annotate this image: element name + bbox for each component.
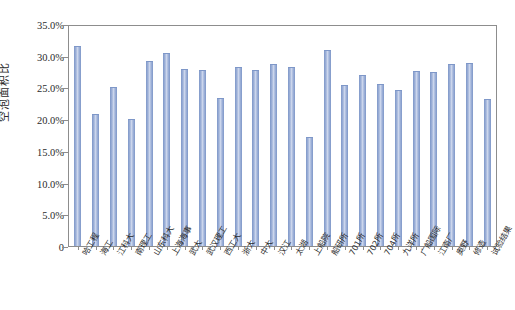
bar-slot [122,26,140,246]
x-label-slot: 江科大 [105,249,123,309]
bar-slot [247,26,265,246]
bar [74,46,81,246]
bar-slot [336,26,354,246]
bar-slot [265,26,283,246]
x-label-slot: 修造 [461,249,479,309]
y-axis-tick-label: 35.0% [37,20,64,31]
x-label-slot: 武汉理工 [194,249,212,309]
bar [163,53,170,246]
bar-slot [372,26,390,246]
bar [288,67,295,246]
y-axis-tick-labels: 35.0%30.0%25.0%20.0%15.0%10.0%5.0%0 [0,0,68,310]
bar-slot [105,26,123,246]
bar [484,99,491,246]
bar-slot [211,26,229,246]
bar [270,64,277,246]
x-label-slot: 试验结果 [478,249,496,309]
bar [146,61,153,246]
bar [92,114,99,246]
bar-slot [443,26,461,246]
bar-slot [194,26,212,246]
bar-slot [318,26,336,246]
x-label-slot: 浙大 [229,249,247,309]
bar [413,71,420,246]
x-label-slot: 南理工 [122,249,140,309]
bar [341,85,348,246]
bar [199,70,206,246]
bar [306,137,313,246]
x-label-slot: 广船国际 [407,249,425,309]
bar-slot [300,26,318,246]
bar-slot [461,26,479,246]
y-axis-tick-label: 30.0% [37,51,64,62]
bar [128,119,135,246]
bar-slot [87,26,105,246]
bar [448,64,455,246]
x-label-slot: 701所 [336,249,354,309]
bar [430,72,437,246]
bar [235,67,242,246]
x-label-slot: 上船院 [300,249,318,309]
x-label-slot: 海工 [87,249,105,309]
bar [181,69,188,246]
bar-slot [283,26,301,246]
x-label-slot: 上海海事 [158,249,176,309]
bar-chart: 空泡面积比 35.0%30.0%25.0%20.0%15.0%10.0%5.0%… [0,0,515,310]
x-label-slot: 西工大 [211,249,229,309]
x-label-slot: 哈工程 [69,249,87,309]
y-axis-tick-label: 5.0% [42,210,64,221]
bar-slot [158,26,176,246]
x-label-slot: 中大 [247,249,265,309]
y-axis-tick-mark [62,247,68,248]
y-axis-tick-label: 10.0% [37,178,64,189]
x-label-slot: 汉江 [265,249,283,309]
bar [466,63,473,246]
x-axis-tick-labels: 哈工程海工江科大南理工山东科大上海海事武大武汉理工西工大浙大中大汉江太湖上船院船… [69,249,496,309]
x-label-slot: 武大 [176,249,194,309]
bar [395,90,402,246]
bar-slot [140,26,158,246]
bar [359,75,366,246]
x-label-slot: 704所 [372,249,390,309]
bar-slot [354,26,372,246]
bar-slot [478,26,496,246]
y-axis-tick-label: 15.0% [37,146,64,157]
x-label-slot: 太湖 [283,249,301,309]
bar [110,87,117,246]
bar-series [69,26,496,246]
x-label-slot: 九洋所 [389,249,407,309]
bar-slot [69,26,87,246]
bar [252,70,259,246]
x-label-slot: 702所 [354,249,372,309]
bar [377,84,384,246]
x-label-slot: 船研所 [318,249,336,309]
x-label-slot: 奥野 [443,249,461,309]
bar-slot [425,26,443,246]
y-axis-tick-label: 25.0% [37,83,64,94]
bar-slot [407,26,425,246]
y-axis-tick-label: 20.0% [37,115,64,126]
bar-slot [176,26,194,246]
x-label-slot: 山东科大 [140,249,158,309]
bar-slot [229,26,247,246]
bar-slot [389,26,407,246]
x-label-slot: 江南厂 [425,249,443,309]
bar [324,50,331,246]
